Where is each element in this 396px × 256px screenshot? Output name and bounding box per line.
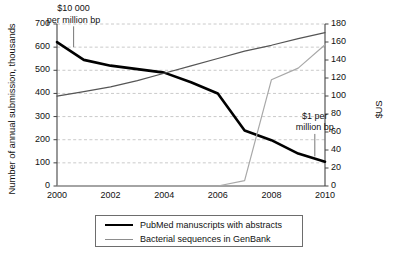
axis-tick-label: 180 — [331, 18, 357, 28]
legend-line-swatch-pubmed — [105, 224, 133, 226]
annotation-line-1: $1 per — [275, 111, 355, 123]
axis-tick-label: 2008 — [251, 190, 291, 200]
axis-tick-label: 40 — [331, 144, 357, 154]
axis-tick-label: 2002 — [91, 190, 131, 200]
y-axis-label-right: $US — [373, 80, 384, 140]
annotation-line-1: $10 000 — [30, 3, 118, 15]
axis-tick-label: 0 — [24, 180, 50, 190]
chart-legend: PubMed manuscripts with abstracts Bacter… — [95, 215, 303, 247]
axis-tick-label: 300 — [24, 111, 50, 121]
axis-frame — [57, 24, 325, 186]
axis-ticks — [54, 24, 329, 186]
chart-figure: Number of annual submission, thousands $… — [0, 0, 396, 256]
axis-tick-label: 200 — [24, 134, 50, 144]
axis-tick-label: 2000 — [37, 190, 77, 200]
axis-tick-label: 0 — [331, 180, 357, 190]
annotation-leader-lines — [74, 26, 315, 156]
annotation-one-dollar-per-million-bp: $1 per million bp — [275, 111, 355, 134]
axis-tick-label: 2004 — [144, 190, 184, 200]
axis-tick-label: 20 — [331, 162, 357, 172]
axis-tick-label: 2010 — [305, 190, 345, 200]
axis-tick-label: 500 — [24, 64, 50, 74]
annotation-line-2: per million bp — [30, 15, 118, 27]
y-axis-label-left: Number of annual submission, thousands — [6, 25, 17, 195]
legend-label-pubmed: PubMed manuscripts with abstracts — [140, 220, 282, 230]
legend-label-genbank: Bacterial sequences in GenBank — [140, 234, 271, 244]
annotation-ten-thousand-per-million-bp: $10 000 per million bp — [30, 3, 118, 26]
legend-item-pubmed: PubMed manuscripts with abstracts — [105, 218, 282, 232]
axis-tick-label: 2006 — [198, 190, 238, 200]
axis-tick-label: 140 — [331, 54, 357, 64]
axis-tick-label: 160 — [331, 36, 357, 46]
axis-tick-label: 100 — [24, 157, 50, 167]
gridlines — [57, 24, 325, 163]
axis-tick-label: 120 — [331, 72, 357, 82]
axis-tick-label: 600 — [24, 41, 50, 51]
axis-tick-label: 400 — [24, 87, 50, 97]
legend-line-swatch-genbank — [105, 239, 133, 240]
annotation-line-2: million bp — [275, 122, 355, 134]
axis-tick-label: 100 — [331, 90, 357, 100]
legend-item-genbank: Bacterial sequences in GenBank — [105, 232, 271, 246]
